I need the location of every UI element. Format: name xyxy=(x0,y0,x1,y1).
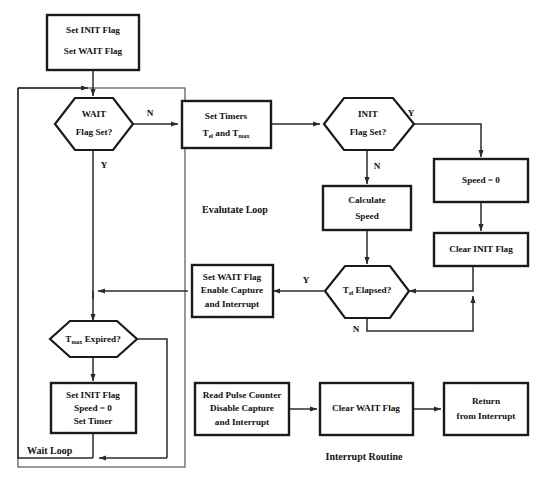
start-flags-line1: Set INIT Flag xyxy=(66,25,120,35)
group-label-wait-loop: Wait Loop xyxy=(27,445,73,456)
group-label-interrupt-routine: Interrupt Routine xyxy=(326,451,404,462)
node-clear-init-flag[interactable]: Clear INIT Flag xyxy=(434,233,528,266)
node-tel-elapsed[interactable]: Tel Elapsed? xyxy=(325,266,409,318)
edge-tmax-right-to-bottom xyxy=(137,339,167,458)
edge-label-wait-no: N xyxy=(147,108,154,118)
edge-clearinit-to-telelapsed xyxy=(409,266,473,291)
start-flags-line2: Set WAIT Flag xyxy=(64,46,123,56)
set-timers-mid: and T xyxy=(213,128,238,138)
init-flag-set-line2: Flag Set? xyxy=(350,127,387,137)
node-reinit[interactable]: Set INIT Flag Speed = 0 Set Timer xyxy=(51,383,136,433)
edge-init-yes-to-speedzero xyxy=(414,124,481,157)
node-set-timers[interactable]: Set Timers Tel and Tmax xyxy=(182,101,271,148)
node-return-from-interrupt[interactable]: Return from Interrupt xyxy=(444,383,528,435)
node-set-wait-flag[interactable]: Set WAIT Flag Enable Capture and Interru… xyxy=(192,265,273,317)
wait-flag-set-line2: Flag Set? xyxy=(76,127,113,137)
init-flag-set-line1: INIT xyxy=(358,109,378,119)
edge-label-init-yes: Y xyxy=(408,108,415,118)
return-line1: Return xyxy=(472,396,500,406)
flowchart-canvas: Set INIT Flag Set WAIT Flag WAIT Flag Se… xyxy=(0,0,538,489)
node-calculate-speed[interactable]: Calculate Speed xyxy=(323,186,411,230)
node-tmax-expired[interactable]: Tmax Expired? xyxy=(50,321,137,357)
tel-post: Elapsed? xyxy=(353,285,391,295)
edge-label-init-no: N xyxy=(374,161,381,171)
clear-init-flag-line1: Clear INIT Flag xyxy=(449,244,513,254)
reinit-line3: Set Timer xyxy=(74,416,113,426)
speed-zero-line1: Speed = 0 xyxy=(462,175,500,185)
edge-label-tel-no: N xyxy=(353,324,360,334)
node-speed-zero[interactable]: Speed = 0 xyxy=(434,159,528,202)
calculate-speed-line1: Calculate xyxy=(348,195,385,205)
read-pulse-counter-line1: Read Pulse Counter xyxy=(203,390,282,400)
tmax-sub: max xyxy=(71,339,82,345)
tmax-post: Expired? xyxy=(82,334,121,344)
edge-label-wait-yes: Y xyxy=(101,160,108,170)
flowchart-svg: Set INIT Flag Set WAIT Flag WAIT Flag Se… xyxy=(0,0,538,489)
set-timers-line1: Set Timers xyxy=(205,111,248,121)
node-clear-wait-flag[interactable]: Clear WAIT Flag xyxy=(320,383,413,435)
set-timers-sub2: max xyxy=(238,133,249,139)
set-wait-flag-line2: Enable Capture xyxy=(201,285,263,295)
node-start-flags[interactable]: Set INIT Flag Set WAIT Flag xyxy=(47,15,139,70)
read-pulse-counter-line2: Disable Capture xyxy=(210,403,274,413)
read-pulse-counter-line3: and Interrupt xyxy=(215,417,270,427)
node-init-flag-set[interactable]: INIT Flag Set? xyxy=(324,98,414,150)
calculate-speed-line2: Speed xyxy=(355,211,379,221)
set-wait-flag-line1: Set WAIT Flag xyxy=(203,272,262,282)
wait-flag-set-line1: WAIT xyxy=(82,109,107,119)
return-line2: from Interrupt xyxy=(457,411,517,421)
reinit-line1: Set INIT Flag xyxy=(66,390,120,400)
node-read-pulse-counter[interactable]: Read Pulse Counter Disable Capture and I… xyxy=(195,383,289,435)
node-wait-flag-set[interactable]: WAIT Flag Set? xyxy=(55,98,133,150)
clear-wait-flag-line1: Clear WAIT Flag xyxy=(332,403,400,413)
group-label-evaluate-loop: Evalutate Loop xyxy=(202,204,268,215)
set-wait-flag-line3: and Interrupt xyxy=(205,299,260,309)
reinit-line2: Speed = 0 xyxy=(74,403,112,413)
edge-label-tel-yes: Y xyxy=(303,275,310,285)
